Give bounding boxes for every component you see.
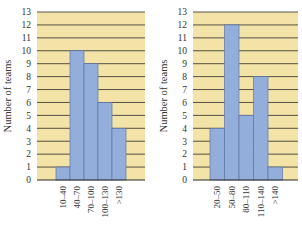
x-tick-label: 10–40	[58, 186, 68, 209]
y-tick-label: 4	[26, 124, 31, 134]
y-tick-label: 8	[182, 72, 187, 82]
y-tick-label: 12	[178, 20, 188, 30]
y-tick-label: 0	[182, 175, 187, 185]
y-tick-label: 13	[178, 7, 188, 17]
y-tick-label: 1	[182, 162, 187, 172]
y-tick-label: 5	[182, 111, 187, 121]
x-tick-label: 20–50	[212, 186, 222, 209]
x-tick-label: >140	[270, 186, 280, 205]
chart-2: 012345678910111213Number of teams20–5050…	[158, 7, 298, 217]
bar-70–100	[84, 64, 98, 180]
x-tick-label: 110–140	[256, 186, 266, 218]
y-tick-label: 8	[26, 72, 31, 82]
y-tick-label: 11	[22, 33, 31, 43]
y-tick-label: 2	[182, 149, 187, 159]
y-axis-label: Number of teams	[158, 60, 169, 133]
y-tick-label: 3	[182, 137, 187, 147]
y-tick-label: 4	[182, 124, 187, 134]
bar-80–110	[239, 115, 254, 180]
y-tick-label: 9	[182, 59, 187, 69]
x-tick-label: 70–100	[86, 186, 96, 214]
y-tick-label: 10	[22, 46, 32, 56]
x-tick-label: 100–130	[100, 186, 110, 218]
bar-10–40	[56, 167, 70, 180]
y-tick-label: 10	[178, 46, 188, 56]
bar->130	[112, 128, 126, 180]
y-tick-label: 12	[22, 20, 32, 30]
bar-100–130	[98, 102, 112, 180]
histogram-figure: 012345678910111213Number of teams10–4040…	[0, 0, 302, 226]
bar-20–50	[210, 128, 225, 180]
y-tick-label: 7	[182, 85, 187, 95]
y-axis-label: Number of teams	[2, 60, 13, 133]
y-tick-label: 11	[178, 33, 187, 43]
bar-110–140	[254, 77, 269, 180]
y-tick-label: 3	[26, 137, 31, 147]
bar-50–80	[225, 25, 240, 180]
x-tick-label: 80–110	[241, 186, 251, 213]
bar-40–70	[70, 51, 84, 180]
y-tick-label: 13	[22, 7, 32, 17]
y-tick-label: 6	[26, 98, 31, 108]
x-tick-label: 50–80	[227, 186, 237, 209]
y-tick-label: 5	[26, 111, 31, 121]
y-tick-label: 1	[26, 162, 31, 172]
x-tick-label: 40–70	[72, 186, 82, 209]
y-tick-label: 7	[26, 85, 31, 95]
x-tick-label: >130	[114, 186, 124, 205]
chart-1: 012345678910111213Number of teams10–4040…	[2, 7, 145, 217]
y-tick-label: 9	[26, 59, 31, 69]
y-tick-label: 0	[26, 175, 31, 185]
y-tick-label: 2	[26, 149, 31, 159]
bar->140	[268, 167, 283, 180]
y-tick-label: 6	[182, 98, 187, 108]
